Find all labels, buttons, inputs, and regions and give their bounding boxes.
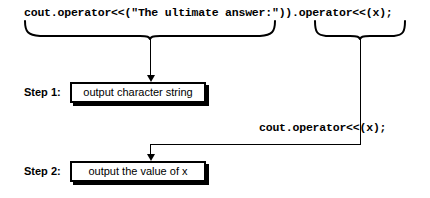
curly-brace-under-icon-right — [314, 20, 406, 40]
step-1-box-text: output character string — [83, 87, 192, 98]
curly-brace-under-icon-left — [24, 20, 276, 40]
step-2-box-text: output the value of x — [88, 166, 187, 177]
step-1-box: output character string — [70, 82, 206, 103]
arrow-down-icon-step2 — [147, 154, 155, 161]
step-1-label: Step 1: — [24, 86, 61, 98]
connector-line-step1 — [150, 38, 151, 76]
arrow-down-icon-step1 — [147, 75, 155, 82]
top-code-line: cout.operator<<("The ultimate answer:"))… — [24, 6, 393, 19]
step-2-label: Step 2: — [24, 165, 61, 177]
middle-code-line: cout.operator<<(x); — [259, 121, 386, 134]
step-2-box: output the value of x — [70, 161, 206, 182]
diagram-canvas: cout.operator<<("The ultimate answer:"))… — [0, 0, 430, 198]
connector-line-step2-horizontal — [150, 144, 361, 145]
